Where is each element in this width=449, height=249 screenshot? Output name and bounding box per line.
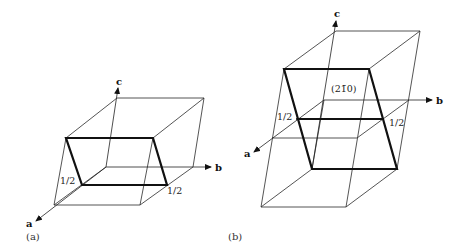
a-axis-label-a: a (26, 218, 33, 229)
b-axis-label-b: b (436, 95, 443, 106)
c-axis-label-a: c (116, 76, 122, 87)
caption-b: (b) (228, 231, 242, 242)
figure-b: c b a 1/2 1/2 (21̄0) (b) (228, 8, 443, 242)
c-axis-a (106, 88, 118, 167)
intercept-label-b-right: 1/2 (389, 117, 404, 128)
intercept-label-a-left: 1/2 (60, 175, 75, 186)
a-axis-b (254, 100, 324, 152)
plane-label-b: (21̄0) (331, 83, 357, 94)
b-axis-label-a: b (215, 162, 222, 173)
intercept-label-a-right: 1/2 (167, 185, 182, 196)
c-axis-label-b: c (334, 8, 340, 19)
a-axis-label-b: a (244, 148, 251, 159)
caption-a: (a) (26, 231, 40, 242)
c-axis-b (312, 21, 336, 169)
figure-a: c b a 1/2 1/2 (a) (26, 76, 222, 242)
crystal-plane-diagrams: c b a 1/2 1/2 (a) (0, 0, 449, 249)
intercept-label-b-left: 1/2 (277, 111, 292, 122)
